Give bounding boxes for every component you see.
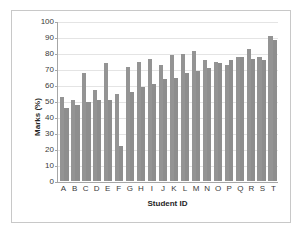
bar (152, 84, 156, 181)
x-axis-tick-label: M (191, 185, 202, 193)
y-axis-tick-label: 50 (45, 98, 54, 106)
bar (119, 146, 123, 181)
y-axis-tick-mark (55, 182, 58, 183)
bar-group (103, 22, 114, 181)
bar-group (179, 22, 190, 181)
y-axis-tick-label: 90 (45, 34, 54, 42)
bar (174, 78, 178, 181)
bar (196, 71, 200, 181)
y-axis-tick-mark (55, 118, 58, 119)
bar-group (267, 22, 278, 181)
bar-group (70, 22, 81, 181)
bar-group (158, 22, 169, 181)
y-axis-tick-label: 30 (45, 130, 54, 138)
y-axis-title: Marks (%) (33, 98, 42, 136)
x-axis-tick-label: O (213, 185, 224, 193)
x-axis-tick-label: N (202, 185, 213, 193)
x-axis-tick-label: J (157, 185, 168, 193)
y-axis-tick-label: 10 (45, 162, 54, 170)
bar-group (256, 22, 267, 181)
y-axis-tick-label: 70 (45, 66, 54, 74)
bar-group (59, 22, 70, 181)
x-axis-tick-label: K (168, 185, 179, 193)
y-axis-tick-mark (55, 150, 58, 151)
x-axis-tick-label: P (224, 185, 235, 193)
y-axis-tick-mark (55, 86, 58, 87)
x-axis-title: Student ID (57, 199, 278, 208)
bar (185, 73, 189, 181)
x-axis-tick-label: H (135, 185, 146, 193)
bar (108, 100, 112, 181)
y-axis-tick-mark (55, 22, 58, 23)
x-axis-tick-label: T (268, 185, 279, 193)
x-axis-tick-label: R (246, 185, 257, 193)
bar-group (223, 22, 234, 181)
bar-group (125, 22, 136, 181)
bar-group (169, 22, 180, 181)
bar-group (92, 22, 103, 181)
x-axis-tick-label: A (58, 185, 69, 193)
x-axis-tick-label: G (124, 185, 135, 193)
x-axis-tick-label: C (80, 185, 91, 193)
bar (273, 40, 277, 182)
chart-frame: Marks (%) 0102030405060708090100 ABCDEFG… (11, 10, 291, 223)
bar-group (201, 22, 212, 181)
y-axis-tick-mark (55, 102, 58, 103)
x-axis-tick-label: E (102, 185, 113, 193)
bar (97, 100, 101, 181)
y-axis-tick-mark (55, 166, 58, 167)
x-axis-tick-label: D (91, 185, 102, 193)
x-axis-tick-label: I (146, 185, 157, 193)
bar (86, 102, 90, 182)
bar (218, 63, 222, 181)
bar (240, 57, 244, 181)
y-axis-tick-label: 0 (50, 178, 54, 186)
y-axis-tick-mark (55, 70, 58, 71)
bar-group (190, 22, 201, 181)
bar-group (245, 22, 256, 181)
bar (229, 60, 233, 181)
bar (130, 92, 134, 181)
bar (141, 87, 145, 181)
bar-group (212, 22, 223, 181)
bar-group (234, 22, 245, 181)
bar-group (81, 22, 92, 181)
x-axis-ticks: ABCDEFGHIJKLMNOPQRST (58, 185, 279, 193)
bar (262, 60, 266, 181)
bar (251, 59, 255, 181)
bar (64, 108, 68, 181)
bar (207, 68, 211, 181)
bar-group (136, 22, 147, 181)
bar-series-container (59, 22, 278, 181)
x-axis-tick-label: L (180, 185, 191, 193)
y-axis-tick-mark (55, 54, 58, 55)
x-axis-tick-label: F (113, 185, 124, 193)
bar-group (147, 22, 158, 181)
bar (163, 79, 167, 181)
y-axis-tick-mark (55, 134, 58, 135)
y-axis-tick-label: 60 (45, 82, 54, 90)
y-axis-tick-label: 80 (45, 50, 54, 58)
x-axis-tick-label: S (257, 185, 268, 193)
y-axis-tick-label: 20 (45, 146, 54, 154)
x-axis-tick-label: B (69, 185, 80, 193)
bar-group (114, 22, 125, 181)
x-axis-tick-label: Q (235, 185, 246, 193)
bar (75, 105, 79, 181)
plot-area: 0102030405060708090100 (57, 22, 278, 183)
y-axis-tick-label: 40 (45, 114, 54, 122)
y-axis-tick-label: 100 (41, 18, 54, 26)
y-axis-tick-mark (55, 38, 58, 39)
